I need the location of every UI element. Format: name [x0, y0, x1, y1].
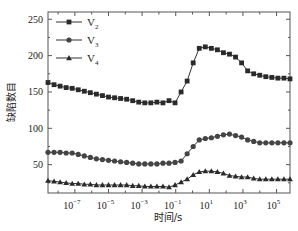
- y-axis-title: 缺陷数目: [5, 82, 17, 122]
- y-tick-label: 50: [33, 159, 43, 170]
- x-tick-label: 10−3: [130, 198, 148, 211]
- x-tick-label: 10−5: [97, 198, 115, 211]
- svg-text:V4: V4: [87, 52, 99, 67]
- series-v3: [45, 132, 292, 167]
- svg-text:V3: V3: [87, 34, 99, 49]
- x-tick-label: 101: [200, 198, 214, 211]
- x-tick-label: 10−7: [63, 198, 81, 211]
- x-tick-label: 105: [267, 198, 281, 211]
- legend-item-v2: V2: [56, 16, 99, 31]
- y-tick-label: 200: [28, 50, 43, 61]
- y-tick-label: 100: [28, 123, 43, 134]
- legend-item-v4: V4: [56, 52, 99, 67]
- y-tick-label: 150: [28, 86, 43, 97]
- x-axis-title: 时间/s: [154, 211, 183, 223]
- x-tick-label: 103: [233, 198, 247, 211]
- svg-text:V2: V2: [87, 16, 99, 31]
- legend: V2V3V4: [56, 16, 99, 67]
- x-tick-label: 10−1: [164, 198, 182, 211]
- series-v2: [46, 44, 293, 105]
- legend-item-v3: V3: [56, 34, 99, 49]
- chart: 50100150200250 10−710−510−310−1101103105…: [0, 0, 298, 231]
- series-layer: [45, 44, 293, 189]
- series-v4: [45, 168, 293, 189]
- y-tick-label: 250: [28, 14, 43, 25]
